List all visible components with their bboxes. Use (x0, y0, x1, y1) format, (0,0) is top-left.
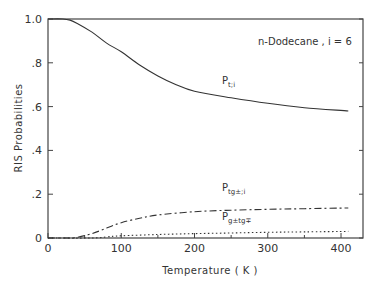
curve-label-ptg: Ptg±;i (222, 182, 245, 196)
y-tick-label: 0 (35, 232, 42, 245)
series-line-2 (48, 231, 348, 238)
curve-label-pgtg: Pg±tg∓ (222, 211, 252, 225)
series-line-0 (48, 19, 348, 111)
x-axis-title: Temperature ( K ) (161, 265, 258, 276)
svg-text:Ptg±;i: Ptg±;i (222, 182, 245, 196)
chart-canvas: 0.2.4.6.81.0 0100200300400 n-Dodecane , … (0, 0, 378, 284)
chart-annotation: n-Dodecane , i = 6 (258, 36, 352, 47)
x-tick-label: 300 (257, 242, 278, 255)
y-tick-label: .2 (32, 188, 43, 201)
x-tick-label: 200 (184, 242, 205, 255)
y-axis-ticks: 0.2.4.6.81.0 (25, 13, 364, 245)
y-tick-label: .6 (32, 101, 43, 114)
y-axis-title: RIS Probabilities (13, 83, 24, 172)
series-line-1 (48, 208, 348, 238)
y-tick-label: .4 (32, 144, 43, 157)
x-tick-label: 0 (45, 242, 52, 255)
svg-text:Pt;i: Pt;i (222, 75, 235, 89)
x-tick-label: 400 (331, 242, 352, 255)
plot-border (48, 19, 363, 238)
y-tick-label: 1.0 (25, 13, 43, 26)
x-axis-ticks: 0100200300400 (45, 233, 352, 255)
x-tick-label: 100 (111, 242, 132, 255)
svg-text:Pg±tg∓: Pg±tg∓ (222, 211, 252, 225)
curve-label-pt: Pt;i (222, 75, 235, 89)
y-tick-label: .8 (32, 57, 43, 70)
plot-curves (48, 19, 348, 238)
plot-frame (48, 19, 363, 238)
